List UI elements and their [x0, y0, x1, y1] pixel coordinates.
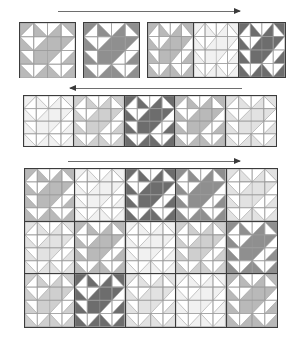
quilt-block	[175, 96, 225, 146]
quilt-block	[75, 222, 125, 275]
quilt-top-panel	[24, 168, 278, 328]
quilt-block	[126, 222, 176, 275]
quilt-block	[176, 274, 226, 327]
middle-arrow-shaft	[70, 88, 242, 89]
quilt-block	[125, 96, 175, 146]
quilt-block	[226, 96, 276, 146]
quilt-block	[239, 23, 285, 77]
quilt-block	[227, 169, 277, 222]
three-block-strip-panel	[147, 22, 286, 78]
top-arrow	[58, 8, 240, 16]
quilt-block	[176, 222, 226, 275]
quilt-block	[25, 274, 75, 327]
quilt-block	[227, 274, 277, 327]
single-block-panel	[19, 22, 76, 78]
quilt-block	[126, 169, 176, 222]
top-arrow-shaft	[58, 11, 240, 12]
quilt-assembly-diagram	[0, 0, 301, 343]
bottom-arrow	[68, 158, 240, 166]
bottom-arrow-head	[234, 158, 241, 164]
quilt-block	[84, 23, 139, 78]
quilt-block	[74, 96, 124, 146]
quilt-block	[148, 23, 194, 77]
middle-arrow	[70, 85, 242, 93]
quilt-block	[194, 23, 240, 77]
quilt-block	[126, 274, 176, 327]
top-arrow-head	[234, 8, 241, 14]
quilt-block	[75, 274, 125, 327]
quilt-block	[25, 222, 75, 275]
quilt-block	[25, 169, 75, 222]
quilt-block	[75, 169, 125, 222]
quilt-block	[20, 23, 75, 78]
quilt-block	[24, 96, 74, 146]
quilt-block	[176, 169, 226, 222]
bottom-arrow-shaft	[68, 161, 240, 162]
middle-arrow-head	[69, 85, 76, 91]
quilt-block	[227, 222, 277, 275]
second-block-panel	[83, 22, 140, 78]
five-block-row-panel	[23, 95, 277, 147]
